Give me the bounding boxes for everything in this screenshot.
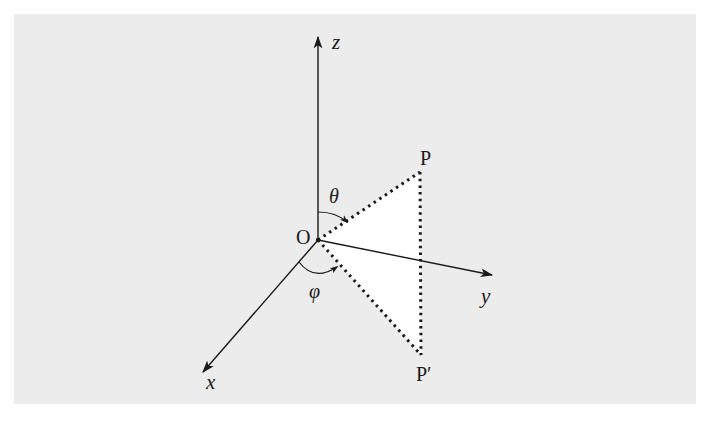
origin-dot <box>316 238 320 242</box>
coordinate-diagram <box>0 0 704 421</box>
phi-arc <box>299 262 337 273</box>
z-axis-label: z <box>332 32 340 53</box>
y-axis-label: y <box>481 286 490 307</box>
point-pprime-label: P′ <box>416 364 432 384</box>
x-axis-label: x <box>206 372 215 393</box>
x-axis <box>203 240 318 372</box>
theta-arc <box>318 212 347 222</box>
phi-label: φ <box>309 281 320 301</box>
theta-label: θ <box>329 186 339 206</box>
origin-label: O <box>296 227 310 247</box>
point-p-label: P <box>420 148 431 168</box>
